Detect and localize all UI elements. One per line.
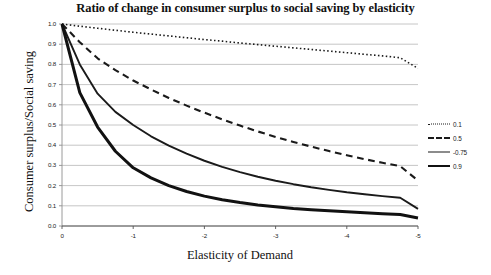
series-line-0	[62, 24, 418, 68]
y-tick-label: 0.9	[34, 40, 56, 47]
legend-line-swatch	[428, 133, 450, 143]
legend-line-swatch	[428, 147, 450, 157]
x-tick-label: -5	[408, 232, 428, 239]
x-tick-label: -1	[123, 232, 143, 239]
y-tick-label: 0.0	[34, 222, 56, 229]
y-tick-label: 1.0	[34, 20, 56, 27]
legend-item-label: 0.5	[450, 135, 462, 142]
x-axis-title: Elasticity of Demand	[62, 248, 418, 263]
y-tick-label: 0.2	[34, 182, 56, 189]
y-tick-label: 0.3	[34, 161, 56, 168]
chart-container: Ratio of change in consumer surplus to s…	[0, 0, 491, 275]
y-tick-label: 0.4	[34, 141, 56, 148]
legend-item-label: 0.1	[450, 121, 462, 128]
legend-item[interactable]: 0.1	[428, 118, 488, 130]
legend-item[interactable]: 0.9	[428, 160, 488, 172]
series-line-3	[62, 24, 418, 218]
legend-line-swatch	[428, 161, 450, 171]
chart-legend: 0.10.5-0.750.9	[428, 118, 488, 174]
y-tick-label: 0.7	[34, 81, 56, 88]
x-tick-label: 0	[52, 232, 72, 239]
legend-item-label: -0.75	[450, 149, 467, 156]
x-tick-label: -4	[337, 232, 357, 239]
series-line-2	[62, 24, 418, 209]
x-tick-label: -2	[194, 232, 214, 239]
legend-item-label: 0.9	[450, 163, 462, 170]
legend-item[interactable]: -0.75	[428, 146, 488, 158]
legend-item[interactable]: 0.5	[428, 132, 488, 144]
x-tick-label: -3	[266, 232, 286, 239]
y-tick-label: 0.1	[34, 202, 56, 209]
y-tick-label: 0.5	[34, 121, 56, 128]
y-tick-label: 0.8	[34, 60, 56, 67]
y-tick-label: 0.6	[34, 101, 56, 108]
legend-line-swatch	[428, 119, 450, 129]
series-line-1	[62, 24, 418, 181]
